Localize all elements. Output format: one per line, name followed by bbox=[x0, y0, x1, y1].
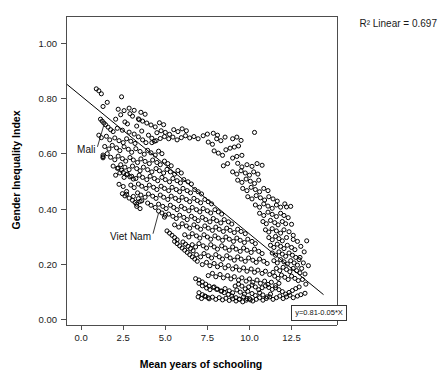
y-tick-label: 0.20 bbox=[39, 259, 58, 270]
x-tick-label: 7.5 bbox=[201, 332, 214, 343]
x-tick-label: 12.5 bbox=[282, 332, 301, 343]
y-tick-label: 0.60 bbox=[39, 148, 58, 159]
x-axis-title: Mean years of schooling bbox=[140, 358, 263, 370]
x-tick-label: 5.0 bbox=[159, 332, 172, 343]
case-label-mali: Mali bbox=[77, 144, 95, 155]
x-tick-label: 0.0 bbox=[75, 332, 88, 343]
x-tick-label: 10.0 bbox=[240, 332, 259, 343]
chart-canvas: 0.000.200.400.600.801.00 0.02.55.07.510.… bbox=[0, 0, 446, 384]
y-tick-label: 1.00 bbox=[39, 38, 58, 49]
y-axis-title: Gender Inequality Index bbox=[10, 110, 22, 229]
gender-inequality-scatter-figure: 0.000.200.400.600.801.00 0.02.55.07.510.… bbox=[0, 0, 446, 384]
r-squared-annotation: R² Linear = 0.697 bbox=[359, 18, 437, 29]
equation-text: y=0.81-0.05*X bbox=[295, 308, 343, 317]
case-label-viet-nam: Viet Nam bbox=[110, 231, 151, 242]
regression-equation-box: y=0.81-0.05*X bbox=[291, 305, 347, 320]
y-tick-label: 0.00 bbox=[39, 314, 58, 325]
y-tick-label: 0.40 bbox=[39, 204, 58, 215]
chart-background bbox=[0, 0, 446, 384]
x-tick-label: 2.5 bbox=[117, 332, 130, 343]
y-tick-label: 0.80 bbox=[39, 93, 58, 104]
